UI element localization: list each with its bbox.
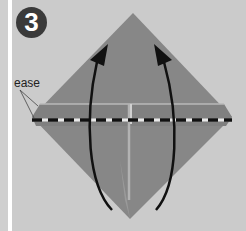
ease-leader-1 <box>20 90 38 106</box>
ease-leader-2 <box>20 90 34 118</box>
step-number-badge: 3 <box>16 7 47 38</box>
ease-label: ease <box>14 76 40 90</box>
